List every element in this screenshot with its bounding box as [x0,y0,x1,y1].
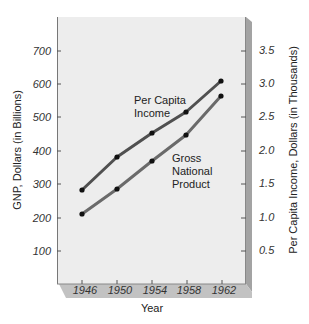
svg-text:Income: Income [134,107,170,119]
svg-text:2.0: 2.0 [258,144,275,156]
plot-panel [57,17,246,284]
chart: 700 600 500 400 300 200 100 3.5 3.0 2.5 … [0,0,309,324]
svg-text:700: 700 [33,45,52,57]
svg-text:3.0: 3.0 [259,77,275,89]
right-tick-labels: 3.5 3.0 2.5 2.0 1.5 1.0 0.5 [258,44,275,256]
svg-text:1954: 1954 [143,284,167,296]
svg-text:400: 400 [33,145,52,157]
svg-text:0.5: 0.5 [259,244,275,256]
svg-text:1.5: 1.5 [259,177,275,189]
left-axis-title: GNP, Dollars (in Billions) [11,90,23,210]
svg-text:Per Capita: Per Capita [134,94,187,106]
svg-text:Gross: Gross [172,152,202,164]
svg-text:2.5: 2.5 [258,110,275,122]
svg-text:National: National [172,165,212,177]
svg-text:300: 300 [33,178,52,190]
svg-text:200: 200 [32,212,52,224]
svg-text:3.5: 3.5 [259,44,275,56]
right-axis-title: Per Capita Income, Dollars (in Thousands… [287,46,299,254]
left-tick-labels: 700 600 500 400 300 200 100 [32,45,52,257]
panel-side [246,17,252,292]
svg-text:600: 600 [33,78,52,90]
svg-text:500: 500 [33,111,52,123]
svg-text:Product: Product [172,178,210,190]
svg-text:1946: 1946 [73,284,98,296]
x-axis-title: Year [141,302,164,314]
svg-text:1950: 1950 [108,284,133,296]
svg-text:1962: 1962 [212,284,236,296]
svg-text:1.0: 1.0 [259,211,275,223]
svg-text:1958: 1958 [177,284,202,296]
svg-text:100: 100 [33,245,52,257]
